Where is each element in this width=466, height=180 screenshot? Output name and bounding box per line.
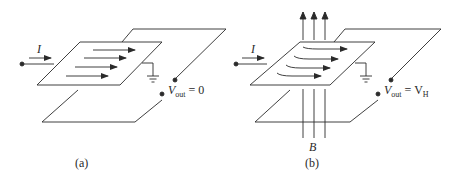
vout-sub-b: out	[391, 90, 401, 99]
caption-a: (a)	[75, 156, 88, 171]
panel-b	[234, 12, 441, 138]
output-terminal-bottom-b	[376, 92, 380, 96]
vout-eq-sub-b: H	[423, 90, 429, 99]
current-label-b: I	[251, 42, 255, 57]
output-terminal-top-a	[173, 78, 177, 82]
vout-sub-a: out	[175, 90, 185, 99]
vout-eq-a: = 0	[189, 83, 205, 97]
input-terminal-b	[234, 62, 238, 66]
ground-symbol-a	[142, 63, 159, 82]
current-label-a: I	[37, 42, 41, 57]
vout-label-b: Vout = VH	[384, 83, 429, 99]
input-terminal-a	[20, 62, 24, 66]
panel-a	[20, 29, 226, 122]
output-terminal-bottom-a	[160, 92, 164, 96]
ground-symbol-b	[355, 63, 372, 82]
field-label-b: B	[309, 140, 316, 155]
magnetic-field-lines-lower	[303, 89, 325, 138]
vout-eq-b: = V	[405, 83, 423, 97]
caption-b: (b)	[305, 156, 319, 171]
vout-label-a: Vout = 0	[168, 83, 204, 99]
output-terminal-top-b	[389, 78, 393, 82]
sensor-plate-a	[37, 42, 162, 85]
magnetic-field-arrows-upper	[300, 12, 328, 40]
